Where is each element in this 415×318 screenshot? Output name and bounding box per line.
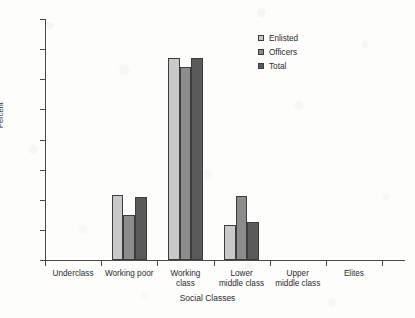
bar <box>180 67 192 260</box>
bar <box>247 222 259 260</box>
bar <box>191 58 203 260</box>
x-axis-tick-label: Elites <box>306 269 401 279</box>
legend-item: Total <box>258 59 298 73</box>
x-axis-tick <box>326 261 327 266</box>
legend-swatch-icon <box>258 63 264 69</box>
x-axis-tick <box>101 261 102 266</box>
x-axis-title: Social Classes <box>0 293 415 303</box>
legend-swatch-icon <box>258 35 264 41</box>
plot-area <box>45 19 382 260</box>
chart-figure: 01020304050607080 UnderclassWorking poor… <box>0 0 415 318</box>
legend-label: Enlisted <box>269 34 298 43</box>
chart-legend: EnlistedOfficersTotal <box>258 31 298 73</box>
bar <box>135 197 147 260</box>
x-axis-tick <box>45 261 46 266</box>
bar <box>224 225 236 260</box>
bar <box>112 195 124 260</box>
legend-item: Officers <box>258 45 298 59</box>
x-axis-tick <box>270 261 271 266</box>
y-axis-title: Percent <box>0 102 5 128</box>
bar <box>123 215 135 260</box>
legend-item: Enlisted <box>258 31 298 45</box>
x-axis-tick <box>382 261 383 266</box>
legend-label: Total <box>269 62 286 71</box>
bar <box>236 196 248 260</box>
x-axis-tick <box>157 261 158 266</box>
x-axis-line <box>45 260 405 261</box>
legend-label: Officers <box>269 48 297 57</box>
bar <box>168 58 180 260</box>
legend-swatch-icon <box>258 49 264 55</box>
x-axis-tick <box>214 261 215 266</box>
